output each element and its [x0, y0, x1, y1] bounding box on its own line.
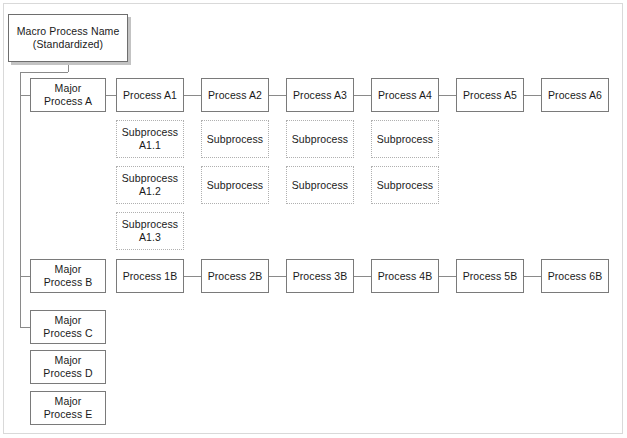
subprocess-box-0-2-label: Subprocess A1.3 [122, 218, 178, 244]
process-b-box-3-label: Process 4B [378, 270, 433, 283]
major-process-box-1-label: Major Process B [44, 263, 93, 289]
major-process-box-2-label: Major Process C [43, 314, 92, 340]
process-a-box-5[interactable]: Process A6 [541, 78, 609, 112]
process-a-box-3[interactable]: Process A4 [371, 78, 439, 112]
macro-process-box-label: Macro Process Name (Standardized) [17, 25, 120, 51]
major-process-box-0[interactable]: Major Process A [30, 78, 106, 112]
subprocess-box-2-1[interactable]: Subprocess [286, 166, 354, 204]
subprocess-box-0-2[interactable]: Subprocess A1.3 [116, 212, 184, 250]
major-process-box-0-label: Major Process A [44, 82, 92, 108]
subprocess-box-2-0[interactable]: Subprocess [286, 120, 354, 158]
connector-row-a-link-5 [524, 95, 541, 96]
process-b-box-4-label: Process 5B [463, 270, 518, 283]
connector-row-a-link-1 [184, 95, 201, 96]
connector-major-stub-2 [20, 327, 30, 328]
connector-row-a-link-4 [439, 95, 456, 96]
subprocess-box-1-0-label: Subprocess [207, 133, 263, 146]
process-a-box-1[interactable]: Process A2 [201, 78, 269, 112]
connector-row-b-link-3 [439, 276, 456, 277]
process-b-box-5-label: Process 6B [548, 270, 603, 283]
subprocess-box-3-0-label: Subprocess [377, 133, 433, 146]
major-process-box-2[interactable]: Major Process C [30, 310, 106, 344]
connector-row-a-link-3 [354, 95, 371, 96]
subprocess-box-2-0-label: Subprocess [292, 133, 348, 146]
major-process-box-3[interactable]: Major Process D [30, 350, 106, 384]
subprocess-box-0-1-label: Subprocess A1.2 [122, 172, 178, 198]
process-a-box-5-label: Process A6 [548, 89, 602, 102]
process-a-box-0[interactable]: Process A1 [116, 78, 184, 112]
subprocess-box-3-1[interactable]: Subprocess [371, 166, 439, 204]
major-process-box-4-label: Major Process E [44, 395, 93, 421]
subprocess-box-3-0[interactable]: Subprocess [371, 120, 439, 158]
connector-macro-stem [68, 62, 69, 72]
subprocess-box-0-0-label: Subprocess A1.1 [122, 126, 178, 152]
process-a-box-1-label: Process A2 [208, 89, 262, 102]
major-process-box-3-label: Major Process D [43, 354, 92, 380]
connector-trunk [20, 72, 21, 327]
subprocess-box-1-0[interactable]: Subprocess [201, 120, 269, 158]
process-a-box-4[interactable]: Process A5 [456, 78, 524, 112]
connector-row-b-link-1 [269, 276, 286, 277]
major-process-box-1[interactable]: Major Process B [30, 259, 106, 293]
process-a-box-0-label: Process A1 [123, 89, 177, 102]
process-b-box-0-label: Process 1B [123, 270, 178, 283]
connector-row-b-link-4 [524, 276, 541, 277]
process-a-box-2[interactable]: Process A3 [286, 78, 354, 112]
major-process-box-4[interactable]: Major Process E [30, 391, 106, 425]
process-b-box-5[interactable]: Process 6B [541, 259, 609, 293]
process-a-box-4-label: Process A5 [463, 89, 517, 102]
subprocess-box-0-0[interactable]: Subprocess A1.1 [116, 120, 184, 158]
process-b-box-1-label: Process 2B [208, 270, 263, 283]
subprocess-box-3-1-label: Subprocess [377, 179, 433, 192]
connector-major-stub-1 [20, 276, 30, 277]
subprocess-box-2-1-label: Subprocess [292, 179, 348, 192]
process-b-box-3[interactable]: Process 4B [371, 259, 439, 293]
connector-macro-elbow [20, 72, 68, 73]
process-a-box-3-label: Process A4 [378, 89, 432, 102]
process-b-box-2[interactable]: Process 3B [286, 259, 354, 293]
process-hierarchy-diagram: Macro Process Name (Standardized)Major P… [0, 0, 627, 438]
connector-row-b-link-2 [354, 276, 371, 277]
connector-row-a-link-0 [106, 95, 116, 96]
macro-process-box[interactable]: Macro Process Name (Standardized) [8, 14, 128, 62]
connector-row-a-link-2 [269, 95, 286, 96]
process-a-box-2-label: Process A3 [293, 89, 347, 102]
process-b-box-0[interactable]: Process 1B [116, 259, 184, 293]
process-b-box-1[interactable]: Process 2B [201, 259, 269, 293]
connector-major-stub-0 [20, 95, 30, 96]
subprocess-box-0-1[interactable]: Subprocess A1.2 [116, 166, 184, 204]
process-b-box-2-label: Process 3B [293, 270, 348, 283]
subprocess-box-1-1-label: Subprocess [207, 179, 263, 192]
connector-row-b-link-0 [184, 276, 201, 277]
process-b-box-4[interactable]: Process 5B [456, 259, 524, 293]
subprocess-box-1-1[interactable]: Subprocess [201, 166, 269, 204]
